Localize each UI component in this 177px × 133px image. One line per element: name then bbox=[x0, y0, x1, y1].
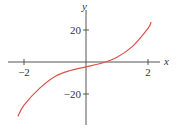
y-axis-label: y bbox=[81, 0, 87, 12]
chart: −22−2020 x y bbox=[0, 0, 177, 133]
y-tick-label: −20 bbox=[64, 88, 82, 100]
data-curve bbox=[18, 22, 151, 116]
x-tick-label: −2 bbox=[18, 66, 30, 78]
x-axis-label: x bbox=[163, 55, 169, 67]
x-tick-label: 2 bbox=[145, 66, 151, 78]
y-tick-label: 20 bbox=[70, 24, 82, 36]
